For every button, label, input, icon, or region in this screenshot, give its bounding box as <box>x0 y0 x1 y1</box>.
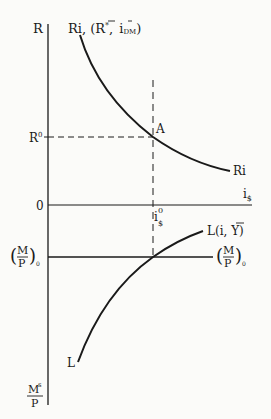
l-curve <box>78 231 203 362</box>
point-a-label: A <box>155 122 165 136</box>
r0-label: R0 <box>29 131 43 145</box>
origin-label: 0 <box>36 199 44 213</box>
svg-text:M: M <box>17 244 28 257</box>
svg-text:): ) <box>29 245 36 266</box>
ri-curve <box>80 35 230 171</box>
svg-text:(: ( <box>10 245 17 266</box>
svg-text:(: ( <box>216 245 223 266</box>
ri-curve-end-label: Ri <box>233 164 246 178</box>
mp0-right-label: ( M P ) 0 <box>216 244 246 270</box>
y-axis-label: R <box>33 21 44 36</box>
ri-curve-label: Ri, (R*,iDM) <box>68 21 141 36</box>
svg-text:0: 0 <box>36 260 40 267</box>
i0-label: i 0 $ <box>154 206 163 228</box>
svg-text:P: P <box>18 257 26 270</box>
svg-text:$: $ <box>158 219 163 228</box>
svg-text:P: P <box>224 257 232 270</box>
svg-text:0: 0 <box>158 206 163 215</box>
diagram-canvas: R Ri, (R*,iDM) R0 A Ri i$ 0 i 0 $ L(i, Y… <box>0 0 271 419</box>
svg-text:M: M <box>223 244 234 257</box>
svg-text:): ) <box>235 245 242 266</box>
svg-text:s: s <box>38 381 42 389</box>
svg-text:Ri, (R*,iDM): Ri, (R*,iDM) <box>68 21 141 36</box>
ms-over-p-label: M s P <box>27 381 43 410</box>
l-curve-label: L(i, Y) <box>207 223 244 238</box>
mp0-left-label: ( M P ) 0 <box>10 244 40 270</box>
x-axis-label: i$ <box>243 187 252 203</box>
l-curve-end-label: L <box>67 356 75 370</box>
svg-text:L(i, Y): L(i, Y) <box>207 224 244 238</box>
svg-text:P: P <box>31 397 39 410</box>
svg-text:0: 0 <box>242 260 246 267</box>
